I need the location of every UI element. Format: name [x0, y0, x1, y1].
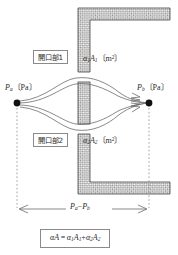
- unit-pa-left: 〔Pa〕: [13, 83, 37, 92]
- annotation-opening-1-area: α1A1〔m2〕: [83, 55, 122, 64]
- unit-m2-opening-2: 〔m2〕: [98, 136, 123, 145]
- eq-equals: =: [61, 233, 66, 242]
- eq-area2-subscript: 2: [98, 236, 101, 242]
- unit-m2-opening-1: 〔m2〕: [98, 54, 123, 63]
- dim-pressure-b-subscript: b: [87, 205, 90, 211]
- diagram-canvas: [0, 0, 178, 255]
- label-dimension-pressure-difference: Pa−Pb: [70, 203, 90, 212]
- label-pressure-b: Pb〔Pa〕: [137, 84, 169, 93]
- unit-pa-right: 〔Pa〕: [145, 83, 169, 92]
- wall-center-baffle: [78, 82, 90, 124]
- eq-area-symbol: A: [54, 233, 59, 242]
- pressure-flow-diagram: 開口部1 α1A1〔m2〕 開口部2 α2A2〔m2〕 Pa〔Pa〕 Pb〔Pa…: [0, 0, 178, 255]
- label-box-opening-2: 開口部2: [33, 133, 68, 147]
- label-box-opening-1: 開口部1: [33, 50, 68, 64]
- node-pressure-a-dot: [14, 100, 21, 107]
- equation-box-total-effective-area: αA = α1A1+α2A2: [40, 229, 110, 248]
- annotation-opening-2-area: α2A2〔m2〕: [83, 137, 122, 146]
- node-pressure-b-dot: [146, 100, 153, 107]
- label-pressure-a: Pa〔Pa〕: [5, 84, 37, 93]
